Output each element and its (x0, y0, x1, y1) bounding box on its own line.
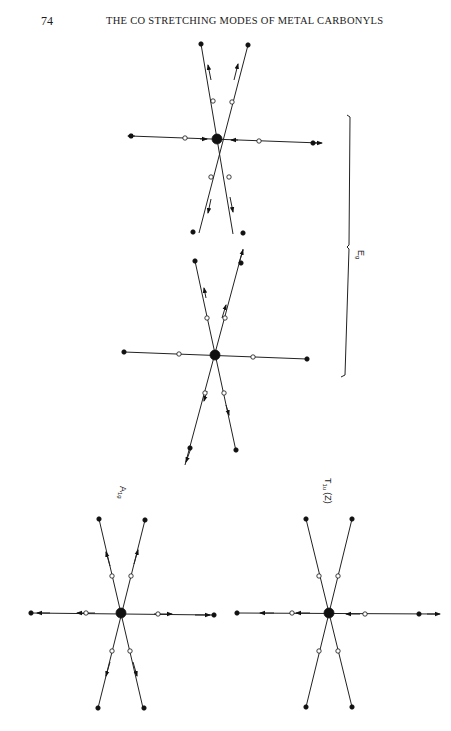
a1g-label: A1g (117, 486, 128, 499)
atoms-eg-middle (122, 259, 309, 452)
diagram-eg-top (128, 44, 322, 234)
eg-brace (341, 115, 350, 377)
t1u-label: T1u(Z) (322, 478, 333, 504)
diagram-t1u (237, 519, 440, 707)
eg-label: Eg (355, 250, 366, 259)
atoms-eg-top (129, 42, 315, 235)
vibrational-modes-figure: Eg A1g (0, 0, 451, 731)
